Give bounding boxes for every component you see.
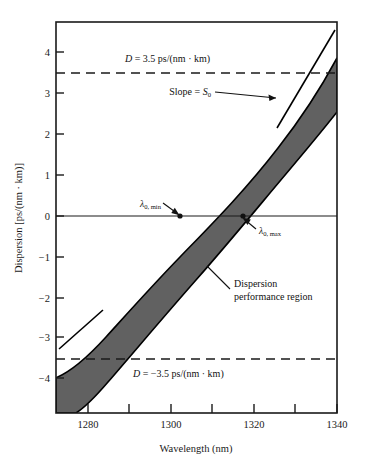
- y-tick-label-neg3: −3: [39, 332, 50, 343]
- upper-limit-annotation: D = 3.5 ps/(nm · km): [124, 53, 210, 65]
- dispersion-chart-figure: 4 3 2 1 0 −1 −2 −3 −4 Dispersion [ps/(nm…: [0, 0, 365, 467]
- slope-annotation: Slope = S0: [169, 86, 211, 98]
- lambda-max-subscript: 0, max: [263, 230, 282, 237]
- y-axis-title: Dispersion [ps/(nm · km)]: [13, 163, 25, 273]
- x-tick-label-1280: 1280: [78, 419, 99, 430]
- y-tick-label-0: 0: [45, 211, 50, 222]
- x-tick-label-1340: 1340: [327, 419, 348, 430]
- upper-limit-text: = 3.5 ps/(nm · km): [132, 53, 210, 65]
- x-axis-title: Wavelength (nm): [160, 443, 233, 455]
- lower-limit-annotation: D = −3.5 ps/(nm · km): [132, 368, 224, 380]
- y-tick-label-neg1: −1: [39, 252, 50, 263]
- x-tick-label-1320: 1320: [244, 419, 265, 430]
- y-tick-label-2: 2: [45, 129, 50, 140]
- slope-annotation-prefix: Slope =: [169, 86, 202, 97]
- lower-limit-text: = −3.5 ps/(nm · km): [140, 368, 224, 380]
- region-annotation-line2: performance region: [234, 291, 313, 302]
- x-tick-label-1300: 1300: [161, 419, 182, 430]
- y-tick-label-neg2: −2: [39, 293, 50, 304]
- region-annotation-line1: Dispersion: [234, 278, 277, 289]
- y-tick-label-4: 4: [45, 47, 51, 58]
- y-tick-label-3: 3: [45, 88, 50, 99]
- y-tick-label-1: 1: [45, 170, 50, 181]
- chart-svg: 4 3 2 1 0 −1 −2 −3 −4 Dispersion [ps/(nm…: [0, 0, 365, 467]
- lambda-min-subscript: 0, min: [144, 203, 162, 210]
- lambda-max-marker: [240, 213, 245, 218]
- figure-background: [0, 0, 365, 467]
- y-tick-label-neg4: −4: [39, 373, 51, 384]
- lambda-min-marker: [177, 213, 182, 218]
